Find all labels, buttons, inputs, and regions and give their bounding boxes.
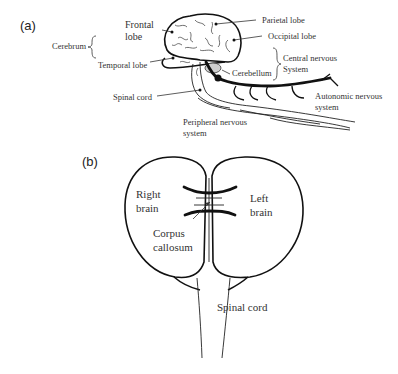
corpus-callosum-bottom (185, 211, 235, 215)
brain-gyri (172, 20, 230, 63)
dot-occipital (233, 39, 236, 42)
leader-cerebellum (222, 70, 230, 74)
label-spinal-cord-b: Spinal cord (217, 301, 268, 313)
spinal-cord-b-right (222, 278, 230, 358)
label-autonomic-2: system (315, 102, 339, 112)
brainstem-node (215, 75, 222, 82)
leader-temporal (150, 58, 173, 62)
label-cns-2: System (283, 64, 308, 74)
label-parietal: Parietal lobe (262, 15, 305, 25)
label-cerebrum: Cerebrum (52, 41, 86, 51)
label-left-brain-2: brain (250, 206, 273, 218)
label-corpus-2: callosum (153, 241, 193, 253)
label-spinal-cord-a: Spinal cord (113, 92, 153, 102)
label-frontal-1: Frontal (125, 19, 154, 30)
label-peripheral-2: system (183, 128, 207, 138)
dot-frontal (171, 31, 174, 34)
brainstem-left-flare (174, 277, 200, 290)
dot-parietal (215, 23, 218, 26)
peripheral-nerves (240, 110, 350, 130)
panel-a-label: (a) (20, 18, 36, 33)
label-cns-1: Central nervous (283, 53, 337, 63)
cerebrum-brace (88, 36, 96, 58)
autonomic-branches (234, 86, 304, 100)
label-right-brain-2: brain (136, 202, 159, 214)
nervous-system-figure: (a) F (0, 0, 398, 374)
brainstem-detail (197, 68, 199, 76)
brainstem-right-flare (228, 277, 248, 290)
dot-spinal (199, 89, 202, 92)
label-temporal: Temporal lobe (98, 60, 147, 70)
leader-spinal-cord (157, 90, 200, 96)
corpus-callosum-top (184, 187, 236, 193)
label-peripheral-1: Peripheral nervous (183, 117, 247, 127)
panel-b-label: (b) (82, 154, 98, 169)
label-frontal-2: lobe (125, 31, 143, 42)
leader-occipital (234, 36, 262, 40)
cerebrum-outline (165, 14, 241, 62)
panel-b: (b) Right brain Left brain Corpus callos… (82, 154, 303, 358)
cns-brace (273, 48, 281, 80)
label-cerebellum: Cerebellum (232, 68, 272, 78)
leader-parietal (216, 20, 256, 24)
label-left-brain-1: Left (250, 192, 268, 204)
label-corpus-1: Corpus (153, 227, 185, 239)
label-autonomic-1: Autonomic nervous (315, 91, 382, 101)
label-occipital: Occipital lobe (268, 31, 316, 41)
label-right-brain-1: Right (136, 188, 160, 200)
right-hemisphere (125, 157, 206, 278)
panel-a: (a) F (20, 14, 382, 138)
dot-temporal (172, 57, 175, 60)
